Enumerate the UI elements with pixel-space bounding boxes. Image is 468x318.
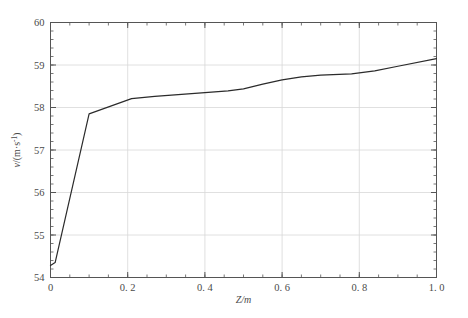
x-axis-title-text: Z/m	[236, 294, 252, 305]
y-tick-label: 56	[34, 187, 45, 198]
x-axis-title: Z/m	[236, 294, 252, 305]
y-tick-label: 55	[34, 230, 45, 241]
x-tick-label: 0. 8	[351, 282, 367, 293]
y-tick-label: 60	[34, 17, 45, 28]
x-tick-label: 0	[48, 282, 53, 293]
chart-figure: 00. 20. 40. 60. 81. 0 54555657585960 Z/m…	[0, 0, 468, 318]
line-chart: 00. 20. 40. 60. 81. 0 54555657585960 Z/m…	[0, 0, 468, 318]
plot-background	[0, 0, 468, 318]
y-tick-label: 57	[34, 145, 45, 156]
x-tick-label: 0. 6	[274, 282, 290, 293]
x-tick-label: 1. 0	[429, 282, 445, 293]
y-tick-label: 59	[34, 60, 45, 71]
y-tick-label: 58	[34, 102, 45, 113]
y-axis-title-unit: /(m·s	[11, 142, 23, 163]
x-tick-label: 0. 4	[197, 282, 214, 293]
y-axis-title-close: )	[11, 133, 23, 136]
y-tick-label: 54	[34, 272, 45, 283]
x-tick-label: 0. 2	[120, 282, 136, 293]
